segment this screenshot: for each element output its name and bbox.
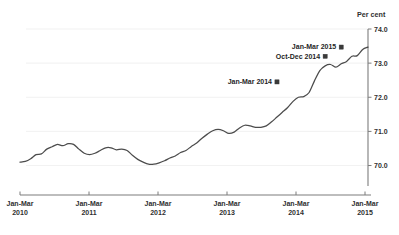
y-axis-tick-label: 70.0 [374, 162, 388, 169]
x-axis-tick-label: Jan-Mar2010 [7, 200, 34, 216]
x-axis: Jan-Mar2010Jan-Mar2011Jan-Mar2012Jan-Mar… [7, 192, 379, 216]
chart-container: Jan-Mar2010Jan-Mar2011Jan-Mar2012Jan-Mar… [0, 0, 399, 235]
x-axis-tick-labels: Jan-Mar2010Jan-Mar2011Jan-Mar2012Jan-Mar… [7, 200, 379, 216]
y-axis-title: Per cent [357, 10, 386, 19]
y-axis-tick-labels: 70.071.072.073.074.0 [374, 26, 388, 170]
annotation-label: Jan-Mar 2015 [292, 43, 336, 50]
data-point-marker [339, 45, 343, 49]
x-axis-tick-label: Jan-Mar2013 [214, 200, 241, 216]
y-axis-tick-label: 71.0 [374, 128, 388, 135]
x-axis-tick-label: Jan-Mar2014 [283, 200, 310, 216]
annotations-group: Jan-Mar 2014Oct-Dec 2014Jan-Mar 2015 [228, 43, 344, 85]
y-axis-tick-label: 72.0 [374, 94, 388, 101]
x-axis-tick-label: Jan-Mar2012 [145, 200, 172, 216]
y-axis: 70.071.072.073.074.0 [368, 26, 388, 186]
y-axis-tick-label: 73.0 [374, 60, 388, 67]
data-series-line [20, 47, 368, 164]
y-axis-tick-label: 74.0 [374, 26, 388, 33]
x-axis-tick-label: Jan-Mar2011 [76, 200, 103, 216]
data-point-marker [275, 80, 279, 84]
annotation-label: Jan-Mar 2014 [228, 78, 272, 85]
data-point-marker [323, 54, 327, 58]
annotation-label: Oct-Dec 2014 [276, 53, 320, 60]
x-axis-tick-label: Jan-Mar2015 [352, 200, 379, 216]
line-chart: Jan-Mar2010Jan-Mar2011Jan-Mar2012Jan-Mar… [0, 0, 399, 235]
